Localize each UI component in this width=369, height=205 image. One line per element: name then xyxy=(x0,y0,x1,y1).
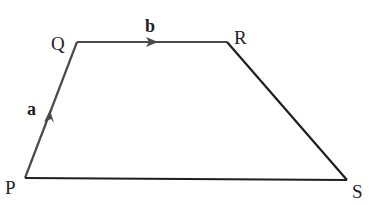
vector-label-b: b xyxy=(145,16,155,36)
edge-SP xyxy=(25,178,347,180)
edge-RS xyxy=(227,42,347,180)
trapezium-diagram: P Q R S a b xyxy=(0,0,369,205)
vertex-label-S: S xyxy=(352,181,363,202)
vector-label-a: a xyxy=(27,99,36,119)
diagram-svg: P Q R S a b xyxy=(0,0,369,205)
vertex-label-P: P xyxy=(5,177,16,198)
vertex-label-R: R xyxy=(234,27,247,48)
arrow-icon-a xyxy=(44,110,54,123)
vertex-label-Q: Q xyxy=(51,33,65,54)
